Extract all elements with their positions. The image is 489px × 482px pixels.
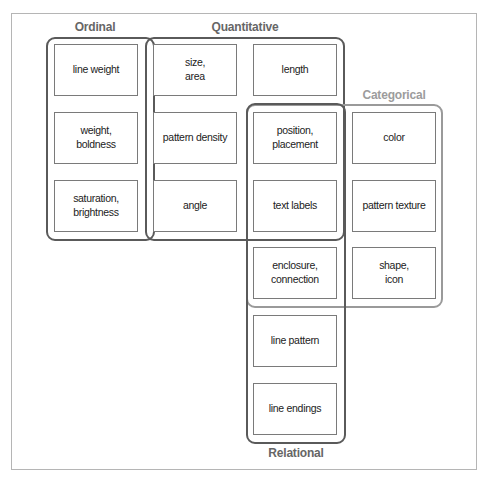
cell-shape-icon: shape, icon [352,247,436,299]
cell-saturation-brightness: saturation, brightness [54,180,138,232]
cell-line-weight: line weight [54,44,138,96]
cell-text-labels: text labels [253,180,337,232]
cell-enclosure-connection: enclosure, connection [253,247,337,299]
cell-length: length [253,44,337,96]
group-label-relational: Relational [236,446,356,460]
group-label-categorical: Categorical [334,88,454,102]
cell-size-area: size, area [153,44,237,96]
cell-line-pattern: line pattern [253,315,337,367]
cell-weight-boldness: weight, boldness [54,112,138,164]
cell-pattern-density: pattern density [153,112,237,164]
cell-line-endings: line endings [253,383,337,435]
cell-pattern-texture: pattern texture [352,180,436,232]
cell-angle: angle [153,180,237,232]
cell-color: color [352,112,436,164]
cell-position-placement: position, placement [253,112,337,164]
group-label-ordinal: Ordinal [35,20,155,34]
group-label-quantitative: Quantitative [185,20,305,34]
